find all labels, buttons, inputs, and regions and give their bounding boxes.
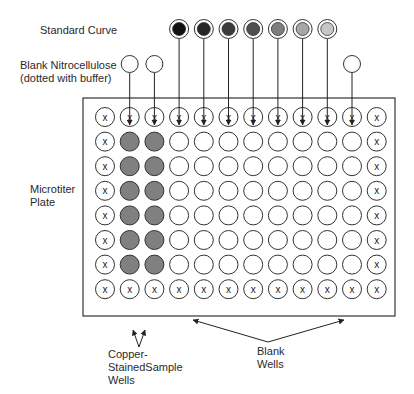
edge-well: x — [96, 206, 115, 225]
copper-sample-well — [145, 181, 164, 200]
blank-nitrocellulose-label: Blank Nitrocellulose (dotted with buffer… — [20, 59, 117, 85]
blank-well — [244, 231, 263, 250]
copper-label-line3: Wells — [108, 374, 183, 387]
edge-well: x — [96, 108, 115, 127]
blank-well — [170, 231, 189, 250]
blank-wells-label: Blank Wells — [257, 345, 285, 371]
edge-well: x — [367, 108, 386, 127]
blank-well — [293, 255, 312, 274]
x-marker: x — [103, 161, 108, 172]
edge-well: x — [367, 181, 386, 200]
x-marker: x — [103, 284, 108, 295]
blank-well — [293, 206, 312, 225]
blank-nitrocellulose-dot — [344, 56, 361, 73]
blank-well — [194, 181, 213, 200]
x-marker: x — [152, 284, 157, 295]
edge-well: x — [268, 280, 287, 299]
x-marker: x — [374, 259, 379, 270]
blank-well — [219, 206, 238, 225]
x-marker: x — [251, 284, 256, 295]
blank-well — [318, 157, 337, 176]
edge-well: x — [96, 231, 115, 250]
copper-sample-well — [145, 231, 164, 250]
blank-well — [343, 157, 362, 176]
edge-well: x — [96, 181, 115, 200]
standard-curve-dot — [293, 20, 312, 39]
x-marker: x — [350, 284, 355, 295]
blank-well — [219, 231, 238, 250]
edge-well: x — [367, 280, 386, 299]
blank-well — [170, 181, 189, 200]
blank-well — [244, 157, 263, 176]
blank-well — [293, 132, 312, 151]
blank-well — [318, 255, 337, 274]
edge-well: x — [318, 280, 337, 299]
blank-well — [219, 181, 238, 200]
copper-sample-well — [145, 206, 164, 225]
copper-sample-well — [120, 181, 139, 200]
blank-well — [194, 206, 213, 225]
x-marker: x — [177, 284, 182, 295]
x-marker: x — [103, 136, 108, 147]
blank-well — [343, 206, 362, 225]
copper-label-line1: Copper- — [108, 348, 183, 361]
plate-label-line1: Microtiter — [30, 183, 75, 196]
bottom-arrows — [133, 320, 344, 347]
blank-well — [293, 231, 312, 250]
x-marker: x — [103, 185, 108, 196]
blank-well — [244, 206, 263, 225]
blank-nitrocellulose-label-line1: Blank Nitrocellulose — [20, 59, 117, 72]
blank-well — [219, 157, 238, 176]
x-marker: x — [103, 235, 108, 246]
blank-well — [170, 157, 189, 176]
blank-well — [244, 181, 263, 200]
edge-well: x — [145, 280, 164, 299]
x-marker: x — [374, 136, 379, 147]
copper-sample-well — [145, 132, 164, 151]
copper-sample-well — [120, 206, 139, 225]
blank-well — [170, 132, 189, 151]
blank-well — [268, 181, 287, 200]
copper-sample-well — [145, 255, 164, 274]
blank-well — [318, 132, 337, 151]
edge-well: x — [367, 231, 386, 250]
blank-well — [268, 255, 287, 274]
blank-well — [219, 132, 238, 151]
blank-well — [343, 255, 362, 274]
edge-well: x — [367, 132, 386, 151]
standard-curve-dot — [244, 20, 263, 39]
x-marker: x — [300, 284, 305, 295]
edge-well: x — [343, 280, 362, 299]
blank-well — [343, 132, 362, 151]
blank-well — [194, 231, 213, 250]
x-marker: x — [374, 112, 379, 123]
x-marker: x — [275, 284, 280, 295]
blank-well — [194, 255, 213, 274]
copper-sample-well — [120, 231, 139, 250]
edge-well: x — [367, 255, 386, 274]
blank-well — [318, 206, 337, 225]
blank-well — [343, 231, 362, 250]
blank-well — [170, 255, 189, 274]
copper-stained-label: Copper- StainedSample Wells — [108, 348, 183, 387]
x-marker: x — [127, 284, 132, 295]
blank-well — [170, 206, 189, 225]
x-marker: x — [103, 259, 108, 270]
blank-well — [293, 181, 312, 200]
blank-wells-label-line2: Wells — [257, 358, 285, 371]
blank-well — [244, 132, 263, 151]
blank-well — [268, 206, 287, 225]
edge-well: x — [194, 280, 213, 299]
copper-sample-well — [120, 255, 139, 274]
edge-well: x — [293, 280, 312, 299]
x-marker: x — [226, 284, 231, 295]
x-marker: x — [374, 161, 379, 172]
blank-nitrocellulose-label-line2: (dotted with buffer) — [20, 72, 117, 85]
x-marker: x — [374, 210, 379, 221]
standard-curve-dot — [170, 20, 189, 39]
copper-sample-well — [145, 157, 164, 176]
edge-well: x — [244, 280, 263, 299]
copper-sample-well — [120, 157, 139, 176]
edge-well: x — [96, 280, 115, 299]
edge-well: x — [96, 157, 115, 176]
